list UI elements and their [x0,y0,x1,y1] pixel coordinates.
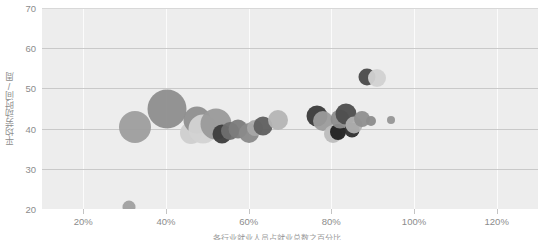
x-axis-tick-label: 80% [322,216,341,227]
x-axis-tick-label: 100% [402,216,426,227]
x-axis-tick-mark [414,209,415,214]
x-axis-tick-mark [497,209,498,214]
bubble-chart: 20304050607020%40%60%80%100%120% 平均劳动时间/… [0,0,553,240]
y-axis-title: 平均劳动时间/周 [4,72,14,145]
x-axis-tick-label: 20% [74,216,93,227]
x-axis-title: 各行业就业人员占就业总数之百分比 [0,232,553,240]
x-axis-tick-mark [249,209,250,214]
x-axis-tick-label: 40% [156,216,175,227]
y-axis-tick-label: 60 [4,43,36,54]
x-axis-tick-mark [166,209,167,214]
x-axis-tick-label: 120% [485,216,509,227]
x-axis-tick-mark [331,209,332,214]
x-axis-tick-label: 60% [239,216,258,227]
y-axis-tick-label: 30 [4,163,36,174]
axis-tick-layer: 20304050607020%40%60%80%100%120% [0,0,553,240]
x-axis-tick-mark [83,209,84,214]
y-axis-tick-label: 70 [4,3,36,14]
y-axis-tick-label: 20 [4,204,36,215]
